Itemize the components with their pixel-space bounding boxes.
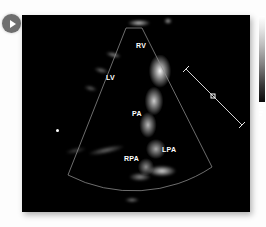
label-lv: LV (106, 74, 115, 81)
label-pa: PA (132, 110, 142, 117)
echocardiogram-image: RV LV PA RPA LPA (22, 15, 250, 212)
label-lpa: LPA (162, 146, 176, 153)
measurement-caliper[interactable] (182, 65, 248, 131)
page-root: RV LV PA RPA LPA (0, 0, 266, 227)
label-rv: RV (136, 42, 146, 49)
echocardiogram-panel[interactable]: RV LV PA RPA LPA (22, 15, 250, 212)
grayscale-tick-marks (259, 104, 265, 120)
play-button[interactable] (2, 14, 21, 33)
label-rpa: RPA (124, 155, 139, 162)
play-icon (10, 20, 16, 28)
grayscale-reference-bar (259, 16, 265, 102)
